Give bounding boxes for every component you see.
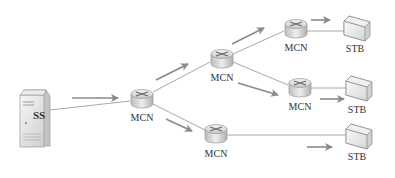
node-label-mcn5: MCN xyxy=(205,148,228,159)
node-label-ss: SS xyxy=(33,109,45,121)
stb-box-icon xyxy=(346,76,372,101)
edge-ss-mcn1 xyxy=(50,101,130,110)
node-label-mcn4: MCN xyxy=(289,101,312,112)
edge-mcn2-mcn4 xyxy=(233,62,288,85)
router-icon xyxy=(285,20,307,39)
router-icon xyxy=(289,79,311,98)
node-label-mcn2: MCN xyxy=(211,72,234,83)
router-icon xyxy=(211,50,233,69)
arrow-icon xyxy=(232,28,264,44)
stb-box-icon xyxy=(344,16,370,41)
router-icon xyxy=(205,125,227,144)
edge-mcn2-mcn3 xyxy=(233,31,284,54)
node-label-stb3: STB xyxy=(348,151,366,162)
node-label-mcn1: MCN xyxy=(131,112,154,123)
edge-mcn1-mcn5 xyxy=(153,104,205,130)
diagram-canvas xyxy=(0,0,395,178)
arrow-icon xyxy=(156,64,188,80)
router-icon xyxy=(131,90,153,109)
node-label-mcn3: MCN xyxy=(285,42,308,53)
network-diagram: SS MCN MCN MCN MCN MCN STB STB STB xyxy=(0,0,395,178)
node-label-stb1: STB xyxy=(346,43,364,54)
stb-box-icon xyxy=(346,124,372,149)
arrow-icon xyxy=(166,119,192,131)
node-label-stb2: STB xyxy=(348,104,366,115)
arrow-icon xyxy=(238,83,278,95)
